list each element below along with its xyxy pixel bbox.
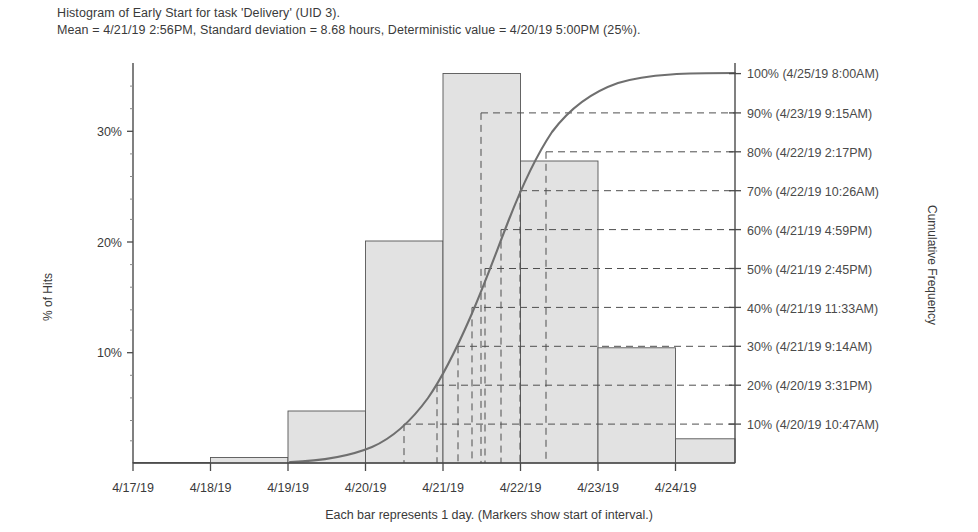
- cum-label-90: 90% (4/23/19 9:15AM): [747, 107, 872, 121]
- cum-label-20: 20% (4/20/19 3:31PM): [747, 379, 872, 393]
- cum-label-80: 80% (4/22/19 2:17PM): [747, 146, 872, 160]
- y2-axis-title: Cumulative Frequency: [925, 205, 939, 325]
- bar-4-22[interactable]: [521, 161, 599, 463]
- cum-label-10: 10% (4/20/19 10:47AM): [747, 418, 879, 432]
- ytick-label-20: 20%: [97, 236, 122, 250]
- chart-svg: 30% 20% 10% % of Hits Cumulative Frequen…: [0, 0, 978, 532]
- cum-label-100: 100% (4/25/19 8:00AM): [747, 67, 879, 81]
- xtick-label-1: 4/18/19: [190, 481, 232, 495]
- xtick-label-2: 4/19/19: [267, 481, 309, 495]
- xtick-label-5: 4/22/19: [500, 481, 542, 495]
- cum-label-60: 60% (4/21/19 4:59PM): [747, 224, 872, 238]
- cum-label-50: 50% (4/21/19 2:45PM): [747, 263, 872, 277]
- bar-4-18[interactable]: [211, 458, 289, 464]
- xtick-label-3: 4/20/19: [345, 481, 387, 495]
- histogram-chart: 30% 20% 10% % of Hits Cumulative Frequen…: [0, 0, 978, 532]
- x-axis-ticks: [133, 463, 676, 471]
- bar-4-21[interactable]: [443, 74, 521, 464]
- left-axis-ticks: [127, 131, 133, 352]
- ytick-label-10: 10%: [97, 346, 122, 360]
- cum-label-40: 40% (4/21/19 11:33AM): [747, 302, 878, 316]
- bar-4-24[interactable]: [676, 439, 736, 463]
- cum-label-30: 30% (4/21/19 9:14AM): [747, 340, 872, 354]
- xtick-label-4: 4/21/19: [422, 481, 464, 495]
- y-axis-title: % of Hits: [41, 273, 55, 321]
- bar-4-23[interactable]: [598, 348, 676, 463]
- xtick-label-7: 4/24/19: [655, 481, 697, 495]
- ytick-label-30: 30%: [97, 125, 122, 139]
- cum-label-70: 70% (4/22/19 10:26AM): [747, 185, 879, 199]
- chart-footer-caption: Each bar represents 1 day. (Markers show…: [0, 508, 978, 522]
- xtick-label-0: 4/17/19: [112, 481, 154, 495]
- bar-4-19[interactable]: [288, 411, 366, 463]
- xtick-label-6: 4/23/19: [577, 481, 619, 495]
